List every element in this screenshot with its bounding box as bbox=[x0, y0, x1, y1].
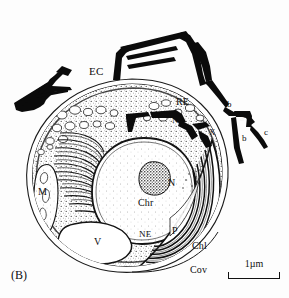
label-chloroplast: Chl bbox=[192, 241, 207, 251]
panel-id: (B) bbox=[11, 268, 27, 283]
scale-bar-label: 1µm bbox=[228, 259, 280, 269]
label-vacuole: V bbox=[94, 237, 101, 247]
label-nucleus: N bbox=[168, 178, 175, 188]
label-covering: Cov bbox=[190, 265, 207, 275]
label-hair-b-lower: b bbox=[242, 134, 247, 143]
label-pyrenoid: P bbox=[172, 226, 178, 236]
scale-bar-line bbox=[228, 272, 280, 279]
label-hair-a: a bbox=[240, 114, 244, 123]
label-nucleus-upper: N bbox=[172, 116, 179, 125]
label-nuclear-envelope: NE bbox=[139, 230, 151, 239]
scale-bar: 1µm bbox=[228, 259, 280, 279]
figure-panel: EC RE N X N Chr M NE P Chl V Cov b a b c… bbox=[0, 0, 289, 298]
label-re: RE bbox=[176, 97, 189, 107]
label-x-body: X bbox=[209, 128, 216, 137]
cell-diagram-svg bbox=[0, 0, 289, 298]
label-hair-b-upper: b bbox=[227, 100, 232, 109]
label-ec: EC bbox=[89, 66, 103, 77]
label-chromatin: Chr bbox=[138, 198, 154, 208]
label-hair-c: c bbox=[264, 128, 268, 137]
label-mitochondrion: M bbox=[38, 187, 47, 197]
